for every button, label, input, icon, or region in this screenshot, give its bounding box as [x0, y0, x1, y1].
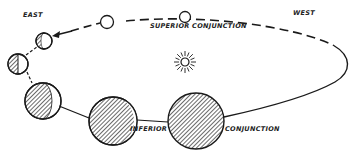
- venus-phases-diagram: EAST WEST SUPERIOR CONJUNCTION INFERIOR …: [0, 0, 361, 151]
- planet-inferior-conjunction: [168, 93, 224, 149]
- orbit-near-side: [224, 45, 348, 117]
- direction-arrow-icon: [52, 31, 72, 38]
- label-east: EAST: [23, 11, 43, 19]
- label-inferior: INFERIOR: [130, 125, 167, 133]
- sun-icon: [174, 51, 196, 73]
- label-conjunction: CONJUNCTION: [225, 125, 280, 133]
- planet-gibbous: [36, 33, 52, 49]
- planet-superior-conjunction: [180, 12, 191, 23]
- label-west: WEST: [293, 9, 315, 17]
- planet-crescent: [25, 83, 61, 119]
- orbit-far-side-left: [71, 23, 100, 31]
- label-superior-conjunction: SUPERIOR CONJUNCTION: [150, 22, 247, 30]
- orbit-segment: [27, 72, 32, 83]
- planet-full: [101, 16, 114, 29]
- planet-half: [8, 54, 28, 74]
- orbit-segment: [26, 47, 37, 55]
- planet-thin-crescent: [89, 97, 137, 145]
- orbit-segment: [59, 106, 89, 118]
- orbit-segment: [137, 120, 168, 122]
